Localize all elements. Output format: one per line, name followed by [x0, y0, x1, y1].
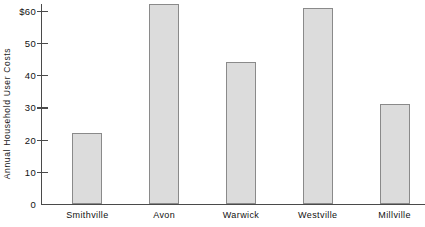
y-axis-line [41, 4, 42, 205]
bar-chart: Annual Household User Costs 01020304050$… [0, 0, 425, 227]
category-label-westville: Westville [298, 210, 337, 220]
y-tick-label: 50 [25, 38, 36, 49]
bar-millville [380, 104, 410, 204]
bar-warwick [226, 62, 256, 204]
y-tick-label: 10 [25, 166, 36, 177]
y-tick-label: 40 [25, 70, 36, 81]
y-tick-mark [37, 107, 48, 108]
bar-smithville [72, 133, 102, 204]
y-tick-mark [37, 75, 48, 76]
plot-area: 01020304050$60 SmithvilleAvonWarwickWest… [41, 4, 425, 205]
y-tick-label: 30 [25, 102, 36, 113]
bar-avon [149, 4, 179, 204]
bar-westville [303, 8, 333, 204]
category-label-avon: Avon [153, 210, 175, 220]
y-tick-mark [37, 172, 48, 173]
y-tick-label: 0 [30, 199, 36, 210]
y-tick-label: $60 [19, 5, 36, 16]
category-label-smithville: Smithville [66, 210, 109, 220]
category-label-millville: Millville [378, 210, 411, 220]
category-label-warwick: Warwick [223, 210, 259, 220]
x-axis-line [41, 204, 425, 205]
y-tick-label: 20 [25, 134, 36, 145]
y-tick-mark [37, 140, 48, 141]
y-tick-mark [37, 43, 48, 44]
y-tick-mark [37, 11, 48, 12]
y-axis-title: Annual Household User Costs [0, 0, 14, 227]
